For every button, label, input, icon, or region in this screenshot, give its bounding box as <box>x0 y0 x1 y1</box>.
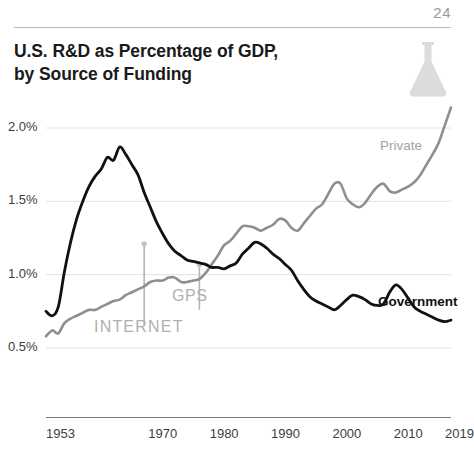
annotation-label-gps: GPS <box>172 287 208 305</box>
x-axis-tick-label: 2000 <box>332 426 361 441</box>
y-axis-tick-label: 1.0% <box>8 266 38 281</box>
annotation-label-internet: INTERNET <box>94 318 184 336</box>
x-axis-tick-label: 2019 <box>445 426 474 441</box>
series-label-private: Private <box>380 138 422 153</box>
x-axis-tick-label: 2010 <box>394 426 423 441</box>
x-axis-line <box>46 417 451 418</box>
x-axis-tick-label: 1953 <box>46 426 75 441</box>
y-axis-tick-label: 0.5% <box>8 339 38 354</box>
x-axis-tick-label: 1970 <box>148 426 177 441</box>
x-axis-tick-label: 1990 <box>271 426 300 441</box>
series-label-government: Government <box>378 294 458 309</box>
y-axis-tick-label: 2.0% <box>8 119 38 134</box>
gridlines <box>46 128 451 348</box>
y-axis-tick-label: 1.5% <box>8 192 38 207</box>
x-axis-tick-label: 1980 <box>210 426 239 441</box>
